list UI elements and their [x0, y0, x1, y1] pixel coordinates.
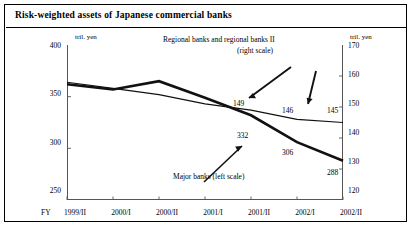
page-title: Risk-weighted assets of Japanese commerc… [15, 10, 232, 20]
left-axis-tick-400: 400 [39, 41, 61, 50]
right-axis-tick-170: 170 [348, 41, 370, 50]
right-axis-tick-120: 120 [348, 186, 370, 195]
x-axis-tick-1999-2: 1999/II [64, 208, 86, 217]
left-axis-tick-300: 300 [39, 138, 61, 147]
x-axis-tick-2002-1: 2002/I [295, 208, 315, 217]
x-axis-tick-2000-2: 2000/II [156, 208, 178, 217]
right-axis-tick-130: 130 [348, 157, 370, 166]
left-axis-tick-350: 350 [39, 89, 61, 98]
x-axis-tick-2001-2: 2001/II [248, 208, 270, 217]
right-axis-tick-160: 160 [348, 70, 370, 79]
x-axis-tick-2002-2: 2002/II [340, 208, 362, 217]
x-axis-tick-2000-1: 2000/I [111, 208, 131, 217]
chart-plot-area [67, 45, 343, 200]
annotation-arrows [204, 67, 316, 182]
right-axis-tick-140: 140 [348, 128, 370, 137]
series-line-major-banks [67, 81, 343, 161]
figure-frame: Risk-weighted assets of Japanese commerc… [4, 4, 407, 222]
right-axis-unit-label: tril. yen [350, 33, 372, 41]
regional-banks-label-line1: Regional banks and regional banks II [163, 35, 275, 44]
left-axis-unit-label: tril. yen [75, 33, 97, 41]
series-line-regional-banks [67, 82, 343, 122]
left-axis-tick-250: 250 [39, 186, 61, 195]
right-axis-tick-150: 150 [348, 99, 370, 108]
title-divider [6, 27, 407, 28]
x-axis-fy-label: FY [41, 208, 51, 217]
x-axis-tick-2001-1: 2001/I [203, 208, 223, 217]
chart-lines [67, 45, 343, 200]
